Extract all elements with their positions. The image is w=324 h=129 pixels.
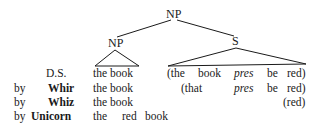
row-label-whiz: Whiz [48,96,74,109]
row-ds-w5: red) [287,67,306,80]
row-whir-w1: (that [181,82,202,95]
row-label-ds: D.S. [46,67,66,80]
row-unicorn-w3: book [145,110,168,123]
row-whir-w3: be [267,82,278,95]
row-whir-w4: red) [287,82,306,95]
row-whir-by: by [14,82,26,95]
row-ds-w1: (the [167,67,185,80]
row-unicorn-w2: red [122,110,137,123]
tree-node-s: S [232,35,239,48]
row-whir-left: the book [93,82,133,95]
row-whir-w2: pres [234,82,253,95]
row-ds-w2: book [198,67,221,80]
tree-node-left-np: NP [108,37,123,50]
tree-node-root-np: NP [166,8,181,21]
row-label-unicorn: Unicorn [31,110,71,123]
row-whiz-by: by [14,96,26,109]
row-unicorn-by: by [14,110,26,123]
row-ds-left: the book [93,67,133,80]
row-whiz-w1: (red) [283,96,305,109]
row-whiz-left: the book [93,96,133,109]
row-unicorn-w1: the [93,110,107,123]
row-ds-w4: be [267,67,278,80]
row-label-whir: Whir [48,82,74,95]
row-ds-w3: pres [234,67,253,80]
